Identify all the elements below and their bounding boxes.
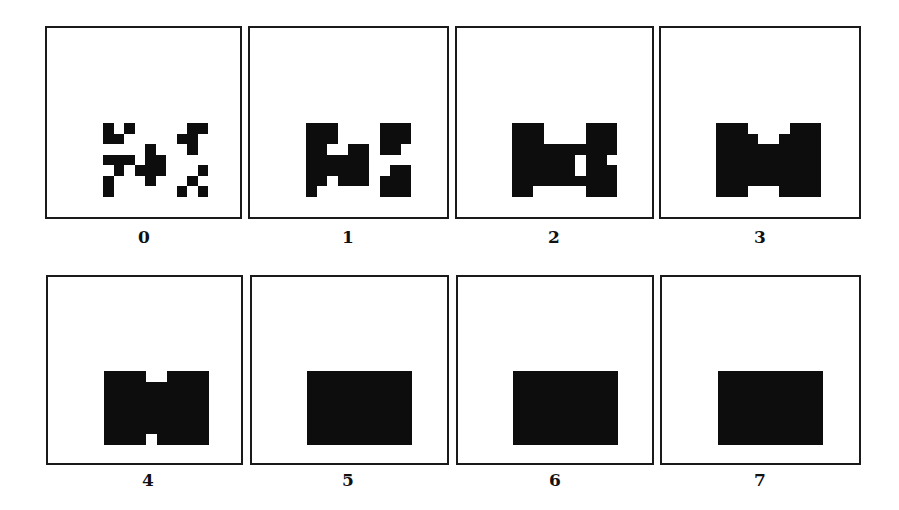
filled-cell	[188, 382, 199, 393]
filled-cell	[359, 144, 370, 155]
filled-cell	[802, 382, 813, 393]
filled-cell	[587, 371, 598, 382]
filled-cell	[513, 434, 524, 445]
filled-cell	[716, 165, 727, 176]
filled-cell	[545, 382, 556, 393]
filled-cell	[802, 424, 813, 435]
filled-cell	[576, 382, 587, 393]
filled-cell	[114, 155, 125, 166]
frame-2	[455, 26, 654, 219]
empty-cell	[758, 134, 769, 145]
empty-cell	[198, 134, 209, 145]
empty-cell	[187, 165, 198, 176]
filled-cell	[737, 165, 748, 176]
filled-cell	[380, 123, 391, 134]
filled-cell	[596, 155, 607, 166]
filled-cell	[307, 371, 318, 382]
filled-cell	[729, 413, 740, 424]
filled-cell	[339, 392, 350, 403]
empty-cell	[533, 186, 544, 197]
empty-cell	[156, 123, 167, 134]
filled-cell	[136, 403, 147, 414]
filled-cell	[360, 392, 371, 403]
filled-cell	[555, 392, 566, 403]
filled-cell	[199, 403, 210, 414]
filled-cell	[167, 371, 178, 382]
filled-cell	[760, 434, 771, 445]
empty-cell	[146, 434, 157, 445]
filled-cell	[136, 382, 147, 393]
filled-cell	[800, 123, 811, 134]
filled-cell	[391, 424, 402, 435]
filled-cell	[779, 186, 790, 197]
filled-cell	[566, 382, 577, 393]
empty-cell	[758, 186, 769, 197]
filled-cell	[555, 382, 566, 393]
filled-cell	[402, 392, 413, 403]
filled-cell	[512, 134, 523, 145]
filled-cell	[391, 434, 402, 445]
empty-cell	[390, 155, 401, 166]
filled-cell	[125, 371, 136, 382]
filled-cell	[800, 134, 811, 145]
filled-cell	[349, 371, 360, 382]
filled-cell	[339, 413, 350, 424]
empty-cell	[317, 186, 328, 197]
filled-cell	[813, 392, 824, 403]
filled-cell	[124, 123, 135, 134]
filled-cell	[790, 186, 801, 197]
filled-cell	[136, 424, 147, 435]
filled-cell	[360, 424, 371, 435]
filled-cell	[596, 165, 607, 176]
filled-cell	[769, 176, 780, 187]
filled-cell	[554, 176, 565, 187]
filled-cell	[750, 434, 761, 445]
filled-cell	[533, 144, 544, 155]
filled-cell	[811, 123, 822, 134]
filled-cell	[555, 403, 566, 414]
filled-cell	[596, 186, 607, 197]
filled-cell	[349, 382, 360, 393]
filled-cell	[370, 403, 381, 414]
filled-cell	[328, 434, 339, 445]
empty-cell	[166, 144, 177, 155]
filled-cell	[188, 392, 199, 403]
filled-cell	[750, 403, 761, 414]
filled-cell	[718, 392, 729, 403]
filled-cell	[771, 434, 782, 445]
filled-cell	[370, 434, 381, 445]
filled-cell	[608, 392, 619, 403]
filled-cell	[555, 434, 566, 445]
filled-cell	[523, 165, 534, 176]
filled-cell	[339, 434, 350, 445]
empty-cell	[575, 134, 586, 145]
filled-cell	[401, 165, 412, 176]
filled-cell	[125, 403, 136, 414]
filled-cell	[597, 413, 608, 424]
filled-cell	[198, 123, 209, 134]
filled-cell	[125, 434, 136, 445]
filled-cell	[729, 382, 740, 393]
empty-cell	[124, 176, 135, 187]
filled-cell	[608, 382, 619, 393]
filled-cell	[779, 155, 790, 166]
filled-cell	[576, 413, 587, 424]
filled-cell	[512, 144, 523, 155]
filled-cell	[781, 424, 792, 435]
empty-cell	[114, 123, 125, 134]
filled-cell	[565, 165, 576, 176]
filled-cell	[348, 176, 359, 187]
empty-cell	[758, 123, 769, 134]
filled-cell	[187, 176, 198, 187]
empty-cell	[156, 134, 167, 145]
filled-cell	[307, 424, 318, 435]
empty-cell	[114, 144, 125, 155]
filled-cell	[727, 155, 738, 166]
filled-cell	[328, 413, 339, 424]
filled-cell	[157, 424, 168, 435]
filled-cell	[103, 134, 114, 145]
empty-cell	[369, 165, 380, 176]
frame-label-4: 4	[118, 470, 178, 490]
filled-cell	[524, 371, 535, 382]
filled-cell	[718, 371, 729, 382]
